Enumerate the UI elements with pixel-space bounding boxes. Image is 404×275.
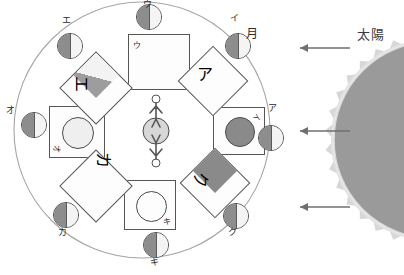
sun-label: 太陽 [357,24,385,43]
orbit-moon-label-エ: エ [62,16,71,25]
earth-sphere [143,118,169,144]
orbit-moon-label-カ: カ [58,228,67,237]
orbit-moon-label-キ: キ [150,258,159,267]
orbit-moon-label-ク: ク [228,228,237,237]
orbit-moon-label-ウ: ウ [143,0,152,9]
orbit-moon-label-イ: イ [230,14,239,23]
diagram-canvas: ウイキオエアクカ 月 太陽 アイウエオカキク [0,0,404,275]
moon-label: 月 [246,28,258,40]
orbit-moon-label-オ: オ [6,106,15,115]
orbit-moon-label-ア: ア [268,104,277,113]
